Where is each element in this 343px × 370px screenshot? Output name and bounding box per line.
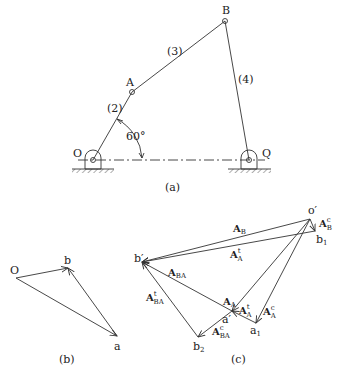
label-link-2: (2) xyxy=(107,102,123,115)
vector-ab xyxy=(68,268,117,336)
label-AAt-top: AtA xyxy=(229,247,244,263)
label-B: B xyxy=(222,4,230,17)
caption-a: (a) xyxy=(165,181,180,194)
vector-ABc xyxy=(310,219,315,231)
figure-b-velocity-polygon: O b a (b) xyxy=(10,254,121,366)
label-link-4: (4) xyxy=(238,73,254,86)
vector-ob xyxy=(16,268,68,278)
vector-oa xyxy=(16,278,117,336)
label-AAt: AtA xyxy=(238,303,253,319)
label-b-prime: b′ xyxy=(134,252,144,265)
vector-AB xyxy=(142,219,310,262)
label-ABA: ABA xyxy=(167,267,187,280)
caption-c: (c) xyxy=(231,353,246,366)
label-ABAc: AcBA xyxy=(211,324,231,340)
caption-b: (b) xyxy=(59,353,75,366)
label-a1: a1 xyxy=(250,324,261,338)
link-4 xyxy=(225,21,249,160)
label-angle: 60° xyxy=(126,130,146,143)
label-A: A xyxy=(125,76,135,89)
label-o-prime: o′ xyxy=(308,204,318,217)
vector-AAt-top xyxy=(142,231,315,262)
label-O: O xyxy=(10,264,19,277)
mechanism-diagram: O A B Q (2) (3) (4) 60° (a) O b a (b) xyxy=(0,0,343,370)
figure-a-linkage: O A B Q (2) (3) (4) 60° (a) xyxy=(72,4,271,194)
label-ABc: AcB xyxy=(318,216,332,232)
label-AB: AB xyxy=(232,223,246,236)
label-ABAt: AtBA xyxy=(145,290,165,306)
figure-c-acceleration-polygon: o′ b1 b′ a′ a1 b2 AB AcB AtA ABA AtBA AA… xyxy=(134,204,332,366)
label-b1: b1 xyxy=(316,233,328,247)
label-link-3: (3) xyxy=(167,45,183,58)
label-b: b xyxy=(64,254,71,267)
label-b2: b2 xyxy=(193,340,205,354)
label-a: a xyxy=(114,340,121,353)
label-O: O xyxy=(73,147,82,160)
label-Q: Q xyxy=(262,147,271,160)
label-AAc: AcA xyxy=(262,304,277,320)
